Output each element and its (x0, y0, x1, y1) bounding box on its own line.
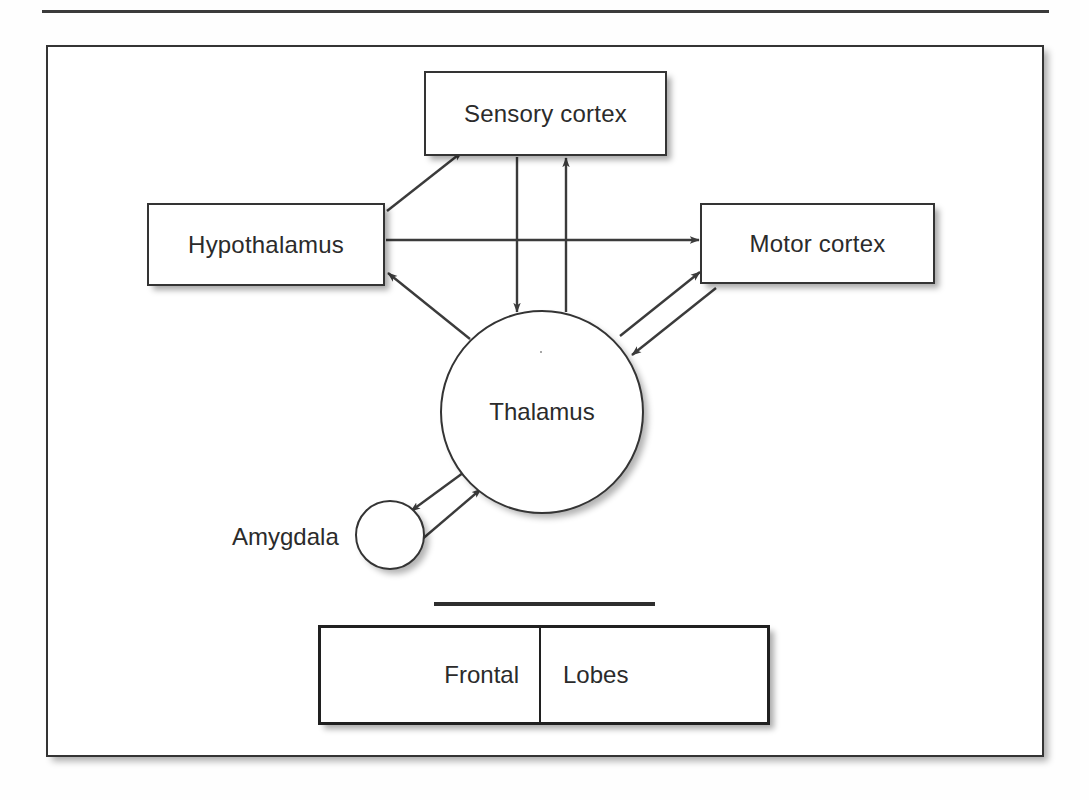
node-amygdala-label: Amygdala (232, 523, 339, 551)
node-hypothalamus: Hypothalamus (147, 203, 385, 286)
node-thalamus: Thalamus (440, 310, 644, 514)
lobes-table-cell-lobes-label: Lobes (563, 661, 628, 689)
lobes-table-cell-frontal-label: Frontal (444, 661, 519, 689)
lobes-table-cell-lobes: Lobes (541, 628, 767, 722)
top-horizontal-rule (42, 10, 1049, 13)
figure-page: Sensory cortex Hypothalamus Motor cortex… (0, 0, 1089, 800)
node-motor-cortex: Motor cortex (700, 203, 935, 284)
node-sensory-cortex: Sensory cortex (424, 71, 667, 156)
node-thalamus-label: Thalamus (489, 398, 594, 426)
lobes-table-cell-frontal: Frontal (321, 628, 541, 722)
lobes-table: Frontal Lobes (318, 625, 770, 725)
node-amygdala (355, 500, 425, 570)
mid-horizontal-rule (434, 602, 655, 606)
node-motor-cortex-label: Motor cortex (750, 230, 886, 258)
node-hypothalamus-label: Hypothalamus (188, 231, 344, 259)
thalamus-center-dot (540, 351, 542, 353)
node-sensory-cortex-label: Sensory cortex (464, 100, 627, 128)
